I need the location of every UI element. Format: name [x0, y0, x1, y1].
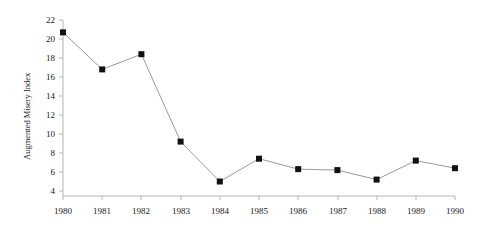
y-tick-label-20: 20 — [46, 34, 56, 44]
x-tick-label-1986: 1986 — [289, 206, 308, 216]
y-tick-label-22: 22 — [46, 15, 55, 25]
data-point-1983 — [178, 139, 184, 145]
data-point-1990 — [452, 165, 458, 171]
y-tick-label-4: 4 — [51, 186, 56, 196]
x-tick-label-1983: 1983 — [172, 206, 191, 216]
y-tick-label-8: 8 — [51, 148, 56, 158]
y-tick-label-6: 6 — [51, 167, 56, 177]
y-tick-label-16: 16 — [46, 72, 56, 82]
x-tick-label-1984: 1984 — [211, 206, 230, 216]
x-tick-label-1989: 1989 — [407, 206, 426, 216]
data-point-1982 — [138, 51, 144, 57]
data-point-1980 — [60, 29, 66, 35]
y-tick-label-14: 14 — [46, 91, 56, 101]
series-markers — [60, 29, 458, 184]
x-axis-ticks — [63, 196, 455, 200]
data-point-1981 — [99, 66, 105, 72]
x-tick-label-1982: 1982 — [132, 206, 150, 216]
data-point-1985 — [256, 156, 262, 162]
y-tick-label-18: 18 — [46, 53, 56, 63]
y-axis-ticks — [59, 20, 63, 191]
data-point-1988 — [374, 177, 380, 183]
data-point-1987 — [334, 167, 340, 173]
x-tick-label-1980: 1980 — [54, 206, 73, 216]
augmented-misery-index-chart: 4 6 8 10 12 14 16 18 20 22 1980 — [0, 0, 479, 238]
data-point-1986 — [295, 166, 301, 172]
x-tick-label-1981: 1981 — [93, 206, 111, 216]
x-tick-label-1987: 1987 — [329, 206, 348, 216]
x-tick-label-1985: 1985 — [250, 206, 269, 216]
y-tick-label-10: 10 — [46, 129, 56, 139]
x-axis-tick-labels: 1980 1981 1982 1983 1984 1985 1986 1987 … — [54, 206, 465, 216]
y-axis-title: Augmented Misery Index — [22, 72, 32, 160]
x-tick-label-1990: 1990 — [446, 206, 465, 216]
data-point-1989 — [413, 158, 419, 164]
data-point-1984 — [217, 179, 223, 185]
chart-plot-area: 4 6 8 10 12 14 16 18 20 22 1980 — [0, 0, 479, 238]
y-axis-tick-labels: 4 6 8 10 12 14 16 18 20 22 — [46, 15, 56, 196]
x-tick-label-1988: 1988 — [368, 206, 387, 216]
y-tick-label-12: 12 — [46, 110, 55, 120]
